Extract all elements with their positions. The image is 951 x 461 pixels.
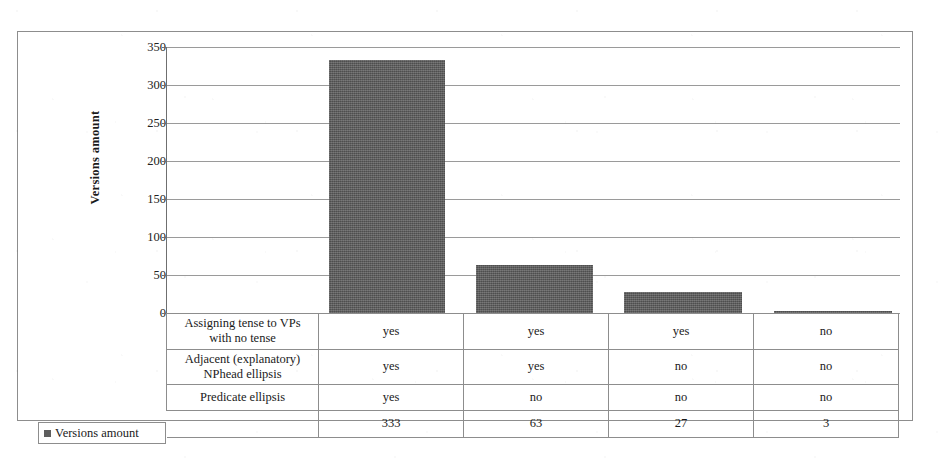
total-c3: 27	[609, 411, 754, 438]
y-tick-150: 150	[120, 192, 166, 207]
total-c1: 333	[319, 411, 464, 438]
row-label-line2: with no tense	[209, 331, 276, 345]
row-label-line1: Assigning tense to VPs	[184, 316, 300, 330]
y-tick-200: 200	[120, 154, 166, 169]
table-row: Adjacent (explanatory) NPhead ellipsis y…	[167, 349, 899, 385]
cell-r3c3: no	[609, 385, 754, 411]
row-label-assigning-tense: Assigning tense to VPs with no tense	[167, 314, 319, 350]
bar-1[interactable]	[329, 60, 445, 313]
y-tick-300: 300	[120, 78, 166, 93]
cell-r3c4: no	[754, 385, 899, 411]
table-row: Assigning tense to VPs with no tense yes…	[167, 314, 899, 350]
bar-3[interactable]	[624, 292, 742, 313]
y-tick-100: 100	[120, 230, 166, 245]
bar-2[interactable]	[476, 265, 593, 313]
cell-r1c1: yes	[319, 314, 464, 350]
cell-r2c1: yes	[319, 349, 464, 385]
y-tick-0: 0	[120, 306, 166, 321]
row-label-nphead-ellipsis: Adjacent (explanatory) NPhead ellipsis	[167, 349, 319, 385]
legend-label: Versions amount	[55, 426, 139, 441]
row-label-predicate-ellipsis: Predicate ellipsis	[167, 385, 319, 411]
cell-r2c3: no	[609, 349, 754, 385]
cell-r3c1: yes	[319, 385, 464, 411]
table-row-totals: 333 63 27 3	[167, 411, 899, 438]
total-c4: 3	[754, 411, 899, 438]
cell-r2c4: no	[754, 349, 899, 385]
y-axis-tick-labels: 350 300 250 200 150 100 50 0	[110, 32, 166, 420]
legend: Versions amount	[38, 422, 166, 444]
legend-swatch-icon	[44, 430, 51, 437]
y-tick-350: 350	[120, 40, 166, 55]
totals-row-label-spacer	[167, 411, 319, 438]
chart-frame: Versions amount 350 300 250 200 150 100 …	[17, 31, 913, 421]
row-label-line1: Adjacent (explanatory)	[185, 352, 301, 366]
cell-r2c2: yes	[464, 349, 609, 385]
y-tick-50: 50	[120, 268, 166, 283]
y-tick-250: 250	[120, 116, 166, 131]
cell-r3c2: no	[464, 385, 609, 411]
y-axis-title: Versions amount	[88, 73, 103, 243]
plot-area	[166, 47, 900, 313]
cell-r1c2: yes	[464, 314, 609, 350]
bar-series	[167, 47, 900, 313]
table-row: Predicate ellipsis yes no no no	[167, 385, 899, 411]
cell-r1c4: no	[754, 314, 899, 350]
cell-r1c3: yes	[609, 314, 754, 350]
total-c2: 63	[464, 411, 609, 438]
row-label-line2: NPhead ellipsis	[203, 367, 281, 381]
data-table: Assigning tense to VPs with no tense yes…	[166, 313, 899, 438]
